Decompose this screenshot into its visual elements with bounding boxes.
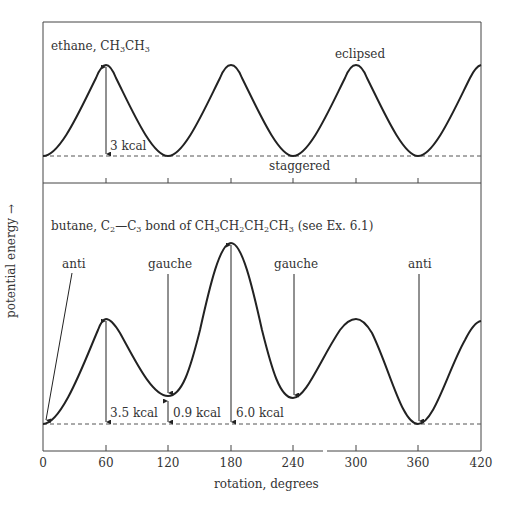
energy-label-3-5: 3.5 kcal bbox=[110, 407, 158, 419]
divider-ticks bbox=[106, 178, 418, 183]
x-axis-label: rotation, degrees bbox=[214, 478, 319, 490]
tick-label: 240 bbox=[282, 457, 305, 469]
x-axis-ticks bbox=[106, 445, 418, 451]
chart-canvas bbox=[0, 0, 506, 505]
gauche-label-240: gauche bbox=[274, 258, 318, 270]
anti-label-0: anti bbox=[62, 258, 86, 270]
tick-label: 300 bbox=[345, 457, 368, 469]
plot-frame bbox=[43, 22, 481, 451]
tick-label: 0 bbox=[39, 457, 47, 469]
y-axis-label: potential energy → bbox=[4, 204, 18, 318]
eclipsed-label: eclipsed bbox=[335, 48, 385, 60]
gauche-label-120: gauche bbox=[148, 258, 192, 270]
energy-label-0-9: 0.9 kcal bbox=[173, 407, 221, 419]
energy-label-6-0: 6.0 kcal bbox=[236, 407, 284, 419]
tick-label: 180 bbox=[220, 457, 243, 469]
tick-label: 420 bbox=[470, 457, 493, 469]
staggered-label: staggered bbox=[269, 160, 330, 172]
anti-label-360: anti bbox=[408, 258, 432, 270]
tick-label: 120 bbox=[157, 457, 180, 469]
ethane-energy-label: 3 kcal bbox=[110, 140, 146, 152]
ethane-curve bbox=[43, 65, 481, 156]
butane-title: butane, C2—C3 bond of CH3CH2CH2CH3 (see … bbox=[51, 220, 373, 234]
tick-label: 60 bbox=[98, 457, 113, 469]
tick-label: 360 bbox=[407, 457, 430, 469]
ethane-title: ethane, CH3CH3 bbox=[51, 40, 150, 54]
